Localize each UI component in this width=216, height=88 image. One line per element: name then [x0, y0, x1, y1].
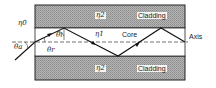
bottom-cladding-index-label: η2 [95, 65, 106, 72]
top-cladding-index-label: η2 [95, 12, 106, 19]
axis-label: Axis [189, 33, 202, 40]
bottom-cladding-label: Cladding [137, 65, 167, 72]
core-index-label: η1 [95, 31, 104, 38]
top-cladding-label: Cladding [137, 12, 167, 19]
refracted-angle-label: θr [47, 47, 55, 54]
fiber-diagram [0, 0, 216, 88]
outside-index-label: η0 [18, 20, 27, 27]
reflection-angle-label: θi [56, 32, 62, 39]
core-label: Core [122, 31, 137, 38]
angle-arc-incident [25, 42, 28, 49]
incident-angle-label: θa [14, 44, 22, 51]
